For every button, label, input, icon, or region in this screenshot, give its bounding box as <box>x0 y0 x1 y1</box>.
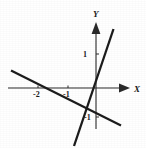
coordinate-graph: Y X -2 -1 1 -1 <box>0 0 146 148</box>
y-tick-label-neg-one: -1 <box>84 113 91 122</box>
x-axis-label: X <box>133 84 141 94</box>
y-axis-arrow-icon <box>92 22 101 34</box>
y-tick-label-pos-one: 1 <box>83 50 87 59</box>
x-tick-label-neg-two: -2 <box>33 90 40 99</box>
x-axis-arrow-icon <box>119 84 130 93</box>
x-tick-label-neg-one: -1 <box>63 90 70 99</box>
math-figure: Y X -2 -1 1 -1 <box>0 0 146 148</box>
y-axis-label: Y <box>93 9 100 19</box>
